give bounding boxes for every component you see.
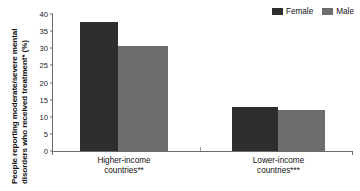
- x-axis-mid-tick: [200, 147, 201, 151]
- plot-area: 0510152025303540: [53, 14, 353, 151]
- y-axis-tick-mark: [50, 151, 53, 152]
- bar-chart: People reporting moderate/severe mental …: [0, 0, 360, 191]
- bar-female-1: [80, 22, 118, 151]
- y-axis-tick-mark: [50, 82, 53, 83]
- y-axis-title-line-1: People reporting moderate/severe mental: [10, 29, 19, 184]
- x-axis-category-label-1: Higher-incomecountries**: [64, 156, 184, 176]
- y-axis-title-line-2: disorders who received treatment* (%): [20, 40, 29, 184]
- x-axis-category-label-line-2: countries**: [64, 166, 184, 176]
- y-axis-title: People reporting moderate/severe mental …: [0, 0, 26, 191]
- bar-male-2: [278, 110, 325, 151]
- x-axis-right-cap: [352, 151, 353, 155]
- y-axis-tick-mark: [50, 133, 53, 134]
- y-axis-tick-mark: [50, 48, 53, 49]
- x-axis-category-label-line-2: countries***: [219, 166, 339, 176]
- bar-female-2: [232, 107, 278, 151]
- x-axis-category-label-2: Lower-incomecountries***: [219, 156, 339, 176]
- y-axis-tick-mark: [50, 14, 53, 15]
- x-axis-category-label-line-1: Higher-income: [64, 156, 184, 166]
- x-axis-line: [52, 151, 353, 152]
- y-axis-tick-mark: [50, 116, 53, 117]
- x-axis-category-label-line-1: Lower-income: [219, 156, 339, 166]
- bar-male-1: [118, 46, 168, 151]
- y-axis-tick-mark: [50, 99, 53, 100]
- y-axis-tick-mark: [50, 65, 53, 66]
- y-axis-tick-mark: [50, 31, 53, 32]
